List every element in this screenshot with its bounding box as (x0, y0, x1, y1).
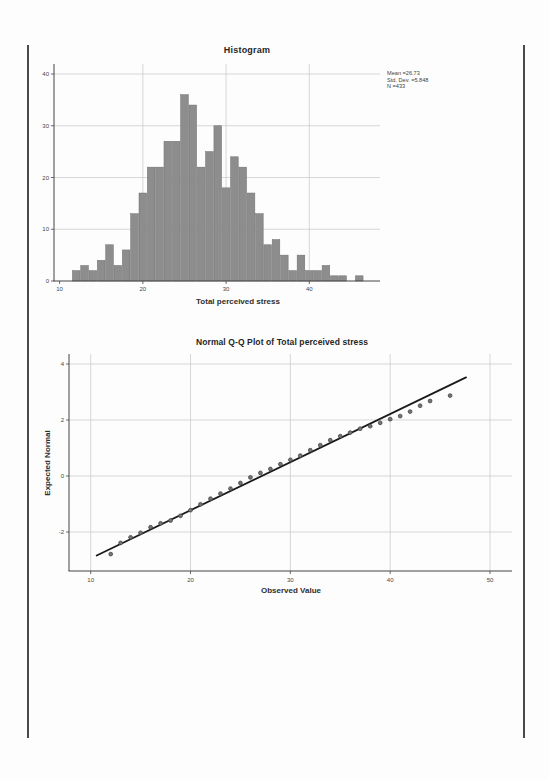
qq-point (169, 519, 173, 523)
histogram-bar (164, 141, 172, 281)
histogram-bar (339, 276, 347, 281)
histogram-bar (181, 95, 189, 281)
qq-point (378, 421, 382, 425)
histogram-bar (222, 188, 230, 281)
qq-point (269, 467, 273, 471)
histogram-bar (197, 167, 205, 281)
qq-point (199, 502, 203, 506)
qq-x-tick-label: 50 (487, 577, 494, 583)
histogram-bar (72, 271, 80, 281)
qq-point (219, 492, 223, 496)
qq-point (279, 462, 283, 466)
hist-y-tick-label: 40 (42, 71, 49, 77)
hist-y-tick-label: 10 (42, 226, 49, 232)
qq-point (358, 427, 362, 431)
qq-point (149, 525, 153, 529)
qq-point (259, 471, 263, 475)
histogram-bar (81, 265, 89, 281)
hist-x-tick-label: 20 (139, 286, 146, 292)
histogram-bar (305, 271, 313, 281)
qq-point (348, 431, 352, 435)
qq-point (298, 454, 302, 458)
qq-point (239, 481, 243, 485)
spss-output-page: Histogram 10203040010203040 Mean =26.73 … (0, 0, 549, 779)
qq-y-tick-label: -2 (59, 529, 65, 535)
histogram-bar (214, 126, 222, 281)
qq-point (209, 497, 213, 501)
qq-point (408, 410, 412, 414)
qq-x-tick-label: 30 (287, 577, 294, 583)
histogram-bar (206, 152, 214, 281)
histogram-bar (131, 214, 139, 281)
qq-y-tick-label: 0 (61, 473, 65, 479)
histogram-bar (314, 271, 322, 281)
histogram-bar (272, 240, 280, 281)
qq-point (289, 458, 293, 462)
hist-y-tick-label: 30 (42, 123, 49, 129)
histogram-plot: 10203040010203040 (0, 40, 549, 320)
hist-x-tick-label: 10 (56, 286, 63, 292)
histogram-bar (322, 265, 330, 281)
histogram-x-axis-title: Total perceived stress (196, 297, 280, 306)
histogram-bar (147, 167, 155, 281)
qq-point (368, 424, 372, 428)
histogram-bar (289, 271, 297, 281)
histogram-bar (256, 214, 264, 281)
qq-point (398, 414, 402, 418)
qq-x-tick-label: 40 (387, 577, 394, 583)
histogram-bar (89, 271, 97, 281)
qq-x-axis-title: Observed Value (261, 586, 321, 595)
qq-y-tick-label: 2 (61, 417, 65, 423)
histogram-bar (122, 250, 130, 281)
qq-point (179, 514, 183, 518)
qq-x-tick-label: 10 (87, 577, 94, 583)
histogram-bar (330, 276, 338, 281)
histogram-bar (156, 167, 164, 281)
qq-point (229, 487, 233, 491)
histogram-bar (97, 260, 105, 281)
qq-point (159, 521, 163, 525)
histogram-bar (264, 245, 272, 281)
qq-point (418, 404, 422, 408)
histogram-stats-box: Mean =26.73 Std. Dev. =5.848 N =433 (387, 70, 428, 90)
histogram-bar (281, 255, 289, 281)
qq-point (388, 417, 392, 421)
qq-point (249, 476, 253, 480)
hist-x-tick-label: 30 (223, 286, 230, 292)
histogram-bar (355, 276, 363, 281)
qq-point (318, 443, 322, 447)
histogram-bar (172, 141, 180, 281)
histogram-bar (106, 245, 114, 281)
histogram-bar (139, 193, 147, 281)
qq-x-tick-label: 20 (187, 577, 194, 583)
qq-point (448, 394, 452, 398)
histogram-bar (114, 265, 122, 281)
stat-std-dev: Std. Dev. =5.848 (387, 77, 428, 84)
histogram-bar (247, 193, 255, 281)
histogram-bar (297, 255, 305, 281)
hist-y-tick-label: 20 (42, 175, 49, 181)
stat-n: N =433 (387, 83, 428, 90)
qq-point (428, 399, 432, 403)
histogram-bar (239, 167, 247, 281)
qq-point (338, 434, 342, 438)
qq-point (119, 541, 123, 545)
qq-point (328, 438, 332, 442)
histogram-bar (189, 105, 197, 281)
stat-mean: Mean =26.73 (387, 70, 428, 77)
hist-x-tick-label: 40 (306, 286, 313, 292)
qq-point (308, 448, 312, 452)
qq-y-tick-label: 4 (61, 361, 65, 367)
qq-plot: 1020304050-2024 (0, 330, 549, 615)
qq-point (189, 508, 193, 512)
histogram-bar (231, 157, 239, 281)
hist-y-tick-label: 0 (46, 278, 50, 284)
qq-point (139, 531, 143, 535)
qq-point (129, 535, 133, 539)
qq-point (109, 552, 113, 556)
